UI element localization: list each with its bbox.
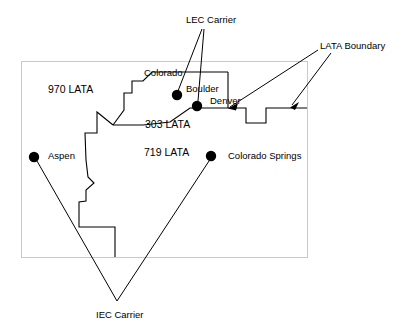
region-label-303-lata: 303 LATA [145, 119, 190, 130]
annotation-iec-carrier: IEC Carrier [96, 309, 144, 320]
aspen-dot[interactable] [29, 152, 39, 162]
region-label-970-lata: 970 LATA [48, 84, 93, 95]
denver-dot[interactable] [192, 101, 202, 111]
boulder-dot[interactable] [172, 90, 182, 100]
lec-carrier-leader-1 [178, 29, 202, 91]
lata-boundary-line-east-step [228, 108, 307, 123]
city-label-aspen: Aspen [48, 150, 75, 161]
lata-boundary-arrow-1 [228, 50, 318, 111]
city-label-boulder: Boulder [186, 83, 219, 94]
lata-boundary-line-west [79, 112, 113, 219]
annotation-lata-boundary: LATA Boundary [320, 40, 385, 51]
iec-carrier-leader-aspen [37, 161, 117, 301]
city-label-colorado-springs: Colorado Springs [228, 150, 301, 161]
diagram-canvas: LEC Carrier LATA Boundary IEC Carrier Co… [0, 0, 411, 330]
city-label-denver: Denver [210, 95, 241, 106]
colorado-springs-dot[interactable] [206, 151, 216, 161]
iec-carrier-leader-springs [117, 161, 209, 301]
lata-boundary-line-southwest-step [79, 219, 115, 257]
annotation-lec-carrier: LEC Carrier [186, 14, 236, 25]
region-label-719-lata: 719 LATA [144, 147, 189, 158]
state-label-colorado: Colorado [144, 67, 183, 78]
